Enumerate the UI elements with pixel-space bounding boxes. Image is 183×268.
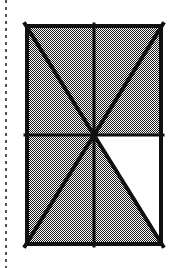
figure-drawing [0,0,183,268]
figure-canvas: Rectangle divided into eight triangular … [0,0,183,268]
construction-line-layer [25,24,163,246]
